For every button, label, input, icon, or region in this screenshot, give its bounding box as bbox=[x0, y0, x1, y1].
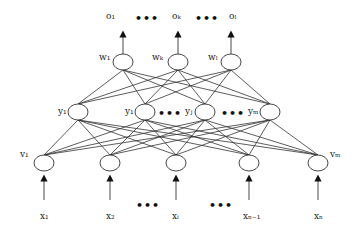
output-ellipsis-1: ••• bbox=[135, 13, 159, 24]
hidden-node-label-1: y₁ bbox=[58, 107, 67, 116]
input-ellipsis-2: ••• bbox=[209, 200, 233, 211]
input-arrows bbox=[44, 178, 318, 200]
output-node-label-1: w₁ bbox=[99, 53, 110, 62]
hidden-ellipsis-1: ••• bbox=[158, 108, 182, 119]
hidden-node-label-2: y₁ bbox=[125, 107, 134, 116]
output-layer-nodes bbox=[113, 54, 241, 70]
input-label-n: xₙ bbox=[314, 212, 323, 221]
hidden-ellipsis-2: ••• bbox=[221, 108, 245, 119]
connections-hidden-to-output bbox=[78, 70, 270, 104]
input-ellipsis-1: ••• bbox=[136, 200, 160, 211]
input-label-n-1: xₙ₋₁ bbox=[243, 212, 260, 221]
output-arrows bbox=[123, 34, 231, 54]
output-label-l: oₗ bbox=[229, 12, 237, 21]
output-node-label-l: wₗ bbox=[208, 53, 218, 62]
output-label-k: oₖ bbox=[172, 12, 181, 21]
input-label-1: x₁ bbox=[40, 212, 49, 221]
input-node-label-m: vₘ bbox=[330, 150, 341, 159]
input-layer-nodes bbox=[34, 155, 328, 171]
output-node-label-k: wₖ bbox=[152, 53, 163, 62]
network-graphic bbox=[0, 0, 358, 240]
output-ellipsis-2: ••• bbox=[195, 13, 219, 24]
input-label-2: x₂ bbox=[106, 212, 115, 221]
neural-network-diagram: o₁ ••• oₖ ••• oₗ w₁ wₖ wₗ y₁ y₁ ••• yⱼ •… bbox=[0, 0, 358, 240]
hidden-node-label-m: yₘ bbox=[248, 107, 259, 116]
input-node-label-1: v₁ bbox=[20, 150, 29, 159]
hidden-node-label-j: yⱼ bbox=[185, 107, 192, 116]
output-label-1: o₁ bbox=[106, 12, 115, 21]
connections-input-to-hidden bbox=[44, 120, 318, 155]
input-label-i: xᵢ bbox=[172, 212, 179, 221]
